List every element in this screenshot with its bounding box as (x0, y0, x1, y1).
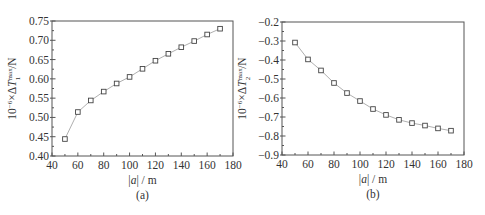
data-point-marker (76, 110, 81, 115)
y-tick-label: 0.70 (29, 34, 49, 46)
y-tick-label: −0.5 (258, 73, 279, 85)
data-point-marker (397, 118, 402, 123)
chart-panel-a: 4060801001201401601800.400.450.500.550.6… (6, 15, 242, 202)
series-line (65, 29, 220, 139)
panel-caption: (b) (366, 188, 380, 201)
x-tick-label: 140 (173, 159, 191, 171)
y-tick-label: −0.6 (258, 92, 279, 104)
y-tick-label: −0.9 (258, 149, 279, 161)
data-point-marker (166, 51, 171, 56)
y-axis-label: 10−6×ΔTmax2/N (236, 57, 252, 120)
data-point-marker (293, 40, 298, 45)
data-point-marker (179, 45, 184, 50)
figure-canvas: 4060801001201401601800.400.450.500.550.6… (0, 0, 485, 215)
y-tick-label: −0.7 (258, 111, 279, 123)
series-line (295, 43, 451, 131)
data-point-marker (436, 126, 441, 131)
x-tick-label: 160 (199, 159, 217, 171)
x-tick-label: 80 (328, 158, 340, 170)
data-point-marker (345, 91, 350, 96)
x-tick-label: 120 (147, 159, 165, 171)
data-point-marker (384, 113, 389, 118)
data-point-marker (101, 89, 106, 94)
data-point-marker (63, 137, 68, 142)
y-tick-label: −0.4 (258, 54, 279, 66)
data-point-marker (358, 99, 363, 104)
x-axis-label: |a| / m (359, 173, 387, 186)
x-tick-label: 100 (351, 158, 369, 170)
x-tick-label: 60 (72, 159, 84, 171)
x-tick-label: 80 (98, 159, 110, 171)
figure: 4060801001201401601800.400.450.500.550.6… (0, 0, 485, 215)
y-tick-label: 0.55 (29, 92, 49, 104)
plot-frame (52, 21, 233, 156)
chart-panel-b: 406080100120140160180−0.9−0.8−0.7−0.6−0.… (236, 16, 473, 201)
y-axis-label: 10−6×ΔTmax1/N (6, 57, 22, 120)
y-tick-label: −0.8 (258, 130, 279, 142)
data-point-marker (140, 67, 145, 72)
y-tick-label: 0.60 (29, 73, 49, 85)
data-point-marker (371, 107, 376, 112)
x-axis-label: |a| / m (128, 174, 156, 187)
y-tick-label: 0.50 (29, 111, 49, 123)
x-tick-label: 160 (429, 158, 447, 170)
data-point-marker (114, 81, 119, 86)
x-tick-label: 60 (302, 158, 314, 170)
y-tick-label: 0.65 (29, 54, 49, 66)
data-point-marker (449, 128, 454, 133)
x-tick-label: 180 (224, 159, 242, 171)
data-point-marker (410, 121, 415, 126)
y-tick-label: 0.40 (29, 150, 49, 162)
x-tick-label: 140 (403, 158, 421, 170)
y-tick-label: −0.2 (258, 16, 279, 28)
y-tick-label: −0.3 (258, 35, 279, 47)
data-point-marker (153, 58, 158, 63)
y-tick-label: 0.45 (29, 131, 49, 143)
x-tick-label: 180 (455, 158, 473, 170)
y-tick-label: 0.75 (29, 15, 49, 27)
data-point-marker (423, 123, 428, 128)
x-tick-label: 120 (377, 158, 395, 170)
data-point-marker (332, 81, 337, 86)
plot-frame (282, 22, 464, 155)
panel-caption: (a) (136, 189, 149, 202)
data-point-marker (218, 26, 223, 31)
data-point-marker (205, 32, 210, 37)
x-tick-label: 100 (121, 159, 139, 171)
data-point-marker (319, 68, 324, 73)
data-point-marker (88, 98, 93, 103)
data-point-marker (306, 57, 311, 62)
data-point-marker (192, 39, 197, 44)
data-point-marker (127, 75, 132, 80)
